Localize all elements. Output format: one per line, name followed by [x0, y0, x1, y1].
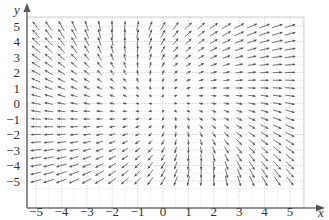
vector-arrow-icon [57, 133, 66, 136]
y-tick-label: 1 [14, 81, 21, 96]
vector-arrow-icon [248, 55, 257, 58]
x-tick-label: 2 [211, 204, 218, 219]
vector-arrow-icon [174, 132, 177, 137]
vector-arrow-icon [97, 94, 102, 96]
vector-arrow-icon [272, 55, 282, 58]
vector-arrow-icon [96, 133, 103, 136]
vector-arrow-icon [211, 102, 216, 105]
vector-arrow-icon [211, 87, 216, 90]
vector-arrow-icon [149, 117, 152, 119]
vector-arrow-icon [162, 110, 164, 113]
y-tick-label: −1 [6, 112, 20, 127]
vector-arrow-icon [187, 132, 190, 137]
vector-arrow-icon [174, 95, 177, 97]
plot-border [27, 17, 304, 208]
vector-arrow-icon [83, 133, 90, 136]
vector-arrow-icon [82, 171, 91, 175]
x-tick-label: 3 [236, 204, 243, 219]
vector-arrow-icon [98, 45, 102, 53]
vector-arrow-icon [136, 95, 139, 97]
vector-arrow-icon [224, 94, 230, 97]
vector-arrow-icon [149, 30, 152, 38]
vector-arrow-icon [69, 171, 79, 175]
x-tick-label: 4 [261, 204, 268, 219]
vector-field-plot: y x −5−4−3−2−1012345 −5−4−3−2−1012345 [0, 0, 329, 220]
vector-arrow-icon [247, 40, 256, 44]
vector-arrow-icon [260, 55, 269, 58]
y-tick-labels: −5−4−3−2−1012345 [6, 19, 20, 189]
y-tick-label: −5 [6, 174, 20, 189]
vector-arrow-icon [44, 133, 53, 136]
vector-arrow-icon [97, 87, 102, 90]
vector-arrow-icon [174, 125, 177, 129]
vector-arrow-icon [212, 118, 217, 121]
x-tick-label: 5 [287, 204, 294, 219]
vector-arrow-icon [111, 37, 114, 45]
vector-arrow-icon [70, 133, 78, 136]
vector-arrow-icon [236, 95, 242, 98]
vector-arrow-icon [123, 118, 128, 121]
vector-arrow-icon [162, 132, 164, 136]
vector-arrow-icon [200, 132, 203, 137]
vector-arrow-icon [262, 176, 267, 186]
vector-arrow-icon [161, 147, 164, 153]
vector-arrow-icon [211, 94, 216, 97]
vector-arrow-icon [110, 118, 115, 121]
y-tick-label: −3 [6, 143, 20, 158]
vector-arrow-icon [199, 102, 203, 105]
vector-arrow-icon [110, 87, 115, 90]
y-tick-label: −4 [6, 158, 20, 173]
vector-arrow-icon [161, 95, 163, 98]
y-tick-label: 4 [14, 34, 21, 49]
vector-arrow-icon [187, 95, 191, 98]
vector-arrow-icon [286, 132, 295, 137]
x-tick-label: −4 [54, 204, 68, 219]
vector-arrow-icon [149, 95, 152, 98]
y-tick-label: 0 [14, 96, 21, 111]
x-axis-label: x [317, 205, 324, 220]
vector-arrow-icon [174, 87, 177, 89]
vector-arrow-icon [56, 171, 66, 175]
vector-arrow-icon [161, 177, 166, 185]
vector-arrow-icon [149, 70, 152, 75]
vector-arrow-icon [97, 78, 102, 82]
x-tick-label: −1 [131, 204, 145, 219]
vector-arrow-icon [110, 95, 115, 97]
vector-arrow-icon [149, 78, 152, 82]
vector-arrow-icon [123, 110, 127, 113]
vector-arrow-icon [110, 78, 114, 82]
y-tick-label: 3 [14, 50, 21, 65]
vector-arrow-icon [199, 87, 204, 90]
x-tick-label: −5 [29, 204, 43, 219]
grid-lines [27, 17, 304, 208]
y-tick-label: −2 [6, 127, 20, 142]
x-tick-labels: −5−4−3−2−1012345 [29, 204, 293, 219]
vector-arrow-icon [148, 133, 152, 136]
vector-arrow-icon [235, 39, 244, 43]
x-tick-label: −2 [105, 204, 119, 219]
x-tick-label: −3 [80, 204, 94, 219]
vector-arrow-icon [110, 110, 115, 113]
y-tick-label: 2 [14, 65, 21, 80]
vector-arrow-icon [235, 55, 243, 58]
y-axis-arrowhead-icon [24, 3, 31, 12]
vector-arrow-icon [161, 54, 164, 60]
vector-arrow-icon [174, 110, 177, 113]
vector-arrow-icon [148, 148, 152, 153]
vector-arrow-icon [199, 94, 203, 97]
axes [24, 3, 326, 212]
y-axis-label: y [12, 2, 20, 17]
y-tick-label: 5 [14, 19, 21, 34]
vector-arrow-icon [212, 132, 216, 137]
x-tick-label: 1 [185, 204, 192, 219]
x-tick-label: 0 [160, 204, 167, 219]
vector-arrow-icon [111, 45, 114, 53]
vector-arrow-icon [162, 78, 164, 82]
